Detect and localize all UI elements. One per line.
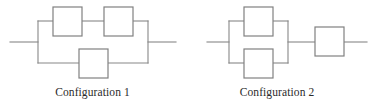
- component-box-bottom: [79, 49, 108, 78]
- configuration-2-diagram: [185, 0, 369, 86]
- configuration-1-panel: Configuration 1: [0, 0, 185, 111]
- configuration-1-caption: Configuration 1: [0, 86, 185, 98]
- reliability-block-diagram-figure: Configuration 1 Con: [0, 0, 369, 111]
- configuration-2-panel: Configuration 2: [185, 0, 369, 111]
- configuration-1-diagram: [0, 0, 185, 86]
- component-box-series: [315, 27, 344, 56]
- component-box-top-right: [104, 7, 133, 36]
- component-box-bottom: [244, 49, 273, 78]
- configuration-2-caption: Configuration 2: [185, 86, 369, 98]
- component-box-top: [244, 7, 273, 36]
- component-box-top-left: [53, 7, 82, 36]
